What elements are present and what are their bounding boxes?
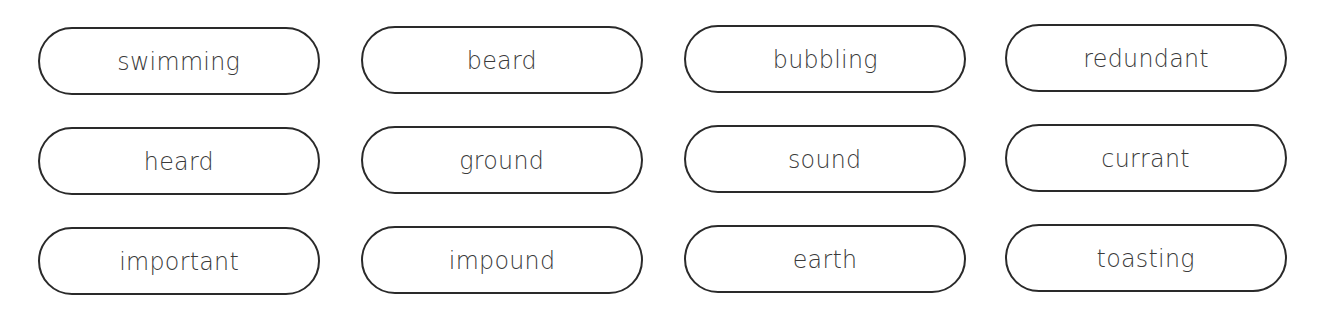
word-label: currant <box>1102 144 1191 173</box>
word-card-heard[interactable]: heard <box>38 127 320 195</box>
word-label: redundant <box>1083 44 1209 73</box>
word-label: earth <box>793 245 858 274</box>
word-label: heard <box>144 147 214 176</box>
word-label: swimming <box>118 47 241 76</box>
word-label: toasting <box>1097 244 1195 273</box>
word-label: sound <box>788 145 862 174</box>
word-label: bubbling <box>772 45 877 74</box>
word-label: impound <box>449 246 556 275</box>
word-card-swimming[interactable]: swimming <box>38 27 320 95</box>
word-label: ground <box>460 146 545 175</box>
word-card-toasting[interactable]: toasting <box>1005 224 1287 292</box>
word-card-sound[interactable]: sound <box>684 125 966 193</box>
word-card-currant[interactable]: currant <box>1005 124 1287 192</box>
word-card-beard[interactable]: beard <box>361 26 643 94</box>
word-label: beard <box>467 46 537 75</box>
word-card-earth[interactable]: earth <box>684 225 966 293</box>
word-card-redundant[interactable]: redundant <box>1005 24 1287 92</box>
word-card-important[interactable]: important <box>38 227 320 295</box>
word-card-impound[interactable]: impound <box>361 226 643 294</box>
word-label: important <box>119 247 239 276</box>
word-card-bubbling[interactable]: bubbling <box>684 25 966 93</box>
word-card-ground[interactable]: ground <box>361 126 643 194</box>
